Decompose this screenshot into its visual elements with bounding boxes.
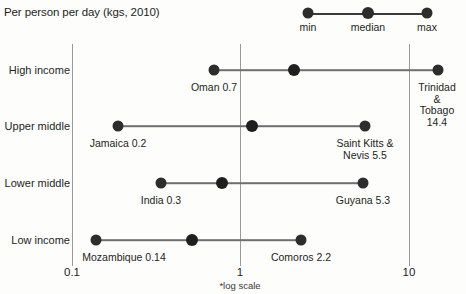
data-point-max [433,65,444,76]
data-point-max [358,178,369,189]
gridline-0.1 [72,44,73,266]
gridline-10 [409,44,410,266]
legend-dot-median [362,7,374,19]
range-line [96,239,301,241]
data-point-median [216,177,228,189]
data-point-min [91,235,102,246]
range-line [118,125,365,127]
data-point-min [209,65,220,76]
plot-area: 0.1110*log scaleHigh incomeOman 0.7Trini… [0,44,466,294]
data-point-label-min: Jamaica 0.2 [90,138,147,150]
x-tick-label-0.1: 0.1 [64,266,80,278]
range-line [161,182,363,184]
data-point-label-max: Trinidad & Tobago 14.4 [418,82,456,128]
legend-label-max: max [417,21,437,33]
legend-label-median: median [351,21,385,33]
data-point-median [246,120,258,132]
data-point-median [288,64,300,76]
data-point-label-min: Mozambique 0.14 [82,252,165,264]
category-label-lower-middle: Lower middle [5,177,70,189]
gridline-1 [240,44,241,266]
log-scale-note: *log scale [219,280,260,291]
category-label-high-income: High income [9,64,70,76]
category-label-upper-middle: Upper middle [5,120,70,132]
data-point-min [113,121,124,132]
x-tick-label-1: 1 [237,266,243,278]
legend-dot-max [422,8,433,19]
data-point-min [156,178,167,189]
chart-legend: minmedianmax [150,0,310,40]
data-point-label-min: India 0.3 [141,195,181,207]
data-point-median [186,234,198,246]
data-point-max [296,235,307,246]
data-point-label-max: Guyana 5.3 [336,195,390,207]
chart-title: Per person per day (kgs, 2010) [4,6,160,18]
range-dot-chart: Per person per day (kgs, 2010) minmedian… [0,0,466,294]
range-line [214,69,438,71]
data-point-max [360,121,371,132]
legend-label-min: min [300,21,317,33]
x-tick-label-10: 10 [403,266,416,278]
category-label-low-income: Low income [11,234,70,246]
data-point-label-min: Oman 0.7 [191,82,237,94]
data-point-label-max: Saint Kitts & Nevis 5.5 [336,138,393,161]
data-point-label-max: Comoros 2.2 [271,252,331,264]
legend-dot-min [303,8,314,19]
